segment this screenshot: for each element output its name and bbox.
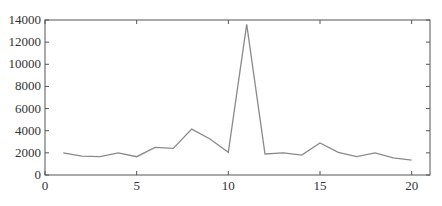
x-axis: 05101520 [42, 20, 418, 193]
x-tick-label: 0 [42, 178, 49, 193]
y-tick-label: 12000 [9, 34, 42, 49]
y-tick-label: 14000 [9, 12, 42, 27]
x-tick-label: 5 [133, 178, 140, 193]
y-tick-label: 8000 [15, 78, 41, 93]
y-tick-label: 6000 [15, 101, 41, 116]
y-tick-label: 2000 [15, 145, 41, 160]
plot-border [45, 20, 430, 175]
x-tick-label: 20 [405, 178, 418, 193]
y-axis: 02000400060008000100001200014000 [9, 12, 431, 182]
plot-frame [45, 20, 430, 175]
data-series-line [63, 24, 411, 160]
line-chart: 02000400060008000100001200014000 0510152… [0, 0, 442, 206]
x-tick-label: 15 [314, 178, 327, 193]
y-tick-label: 10000 [9, 56, 42, 71]
y-tick-label: 0 [35, 167, 42, 182]
x-tick-label: 10 [222, 178, 235, 193]
y-tick-label: 4000 [15, 123, 41, 138]
